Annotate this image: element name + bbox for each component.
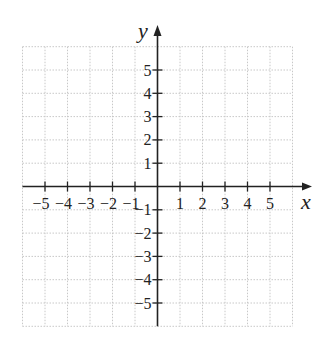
x-tick-label: −5 — [32, 195, 49, 212]
x-tick-label: −4 — [55, 195, 72, 212]
y-tick-label: −1 — [134, 201, 151, 218]
y-axis-arrow-icon — [154, 25, 162, 36]
y-tick-label: −2 — [134, 225, 151, 242]
y-tick-label: −4 — [134, 271, 151, 288]
x-tick-label: 3 — [221, 195, 229, 212]
y-tick-label: 1 — [144, 155, 152, 172]
y-tick-label: 3 — [144, 108, 152, 125]
y-tick-label: −3 — [134, 248, 151, 265]
x-tick-label: 5 — [266, 195, 274, 212]
y-tick-label: 2 — [144, 131, 152, 148]
x-tick-label: −3 — [77, 195, 94, 212]
x-axis-label: x — [300, 189, 311, 214]
x-tick-label: 4 — [244, 195, 252, 212]
y-axis-label: y — [136, 18, 148, 43]
y-tick-label: 5 — [144, 62, 152, 79]
y-tick-label: 4 — [144, 85, 152, 102]
x-tick-label: 1 — [176, 195, 184, 212]
x-tick-label: −2 — [100, 195, 117, 212]
x-tick-label: 2 — [199, 195, 207, 212]
y-tick-label: −5 — [134, 295, 151, 312]
coordinate-plane: −5−4−3−2−11234554321−1−2−3−4−5 x y — [0, 0, 329, 350]
